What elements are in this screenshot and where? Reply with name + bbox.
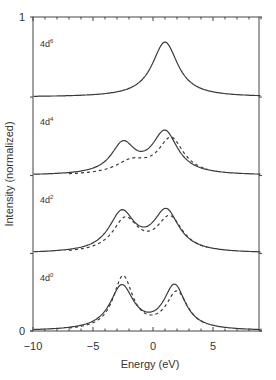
y-tick-label-bottom: 0 — [19, 325, 25, 337]
panel-label-4d2: 4d2 — [40, 194, 54, 205]
curve-4d4-solid — [34, 130, 261, 174]
panel-label-4d4: 4d4 — [40, 116, 54, 127]
spectra-figure: 4d64d44d24d0 1 0 −10 −5 0 5 Energy (eV) … — [0, 0, 276, 380]
panel-labels: 4d64d44d24d0 — [40, 38, 54, 283]
curve-4d0-dashed — [69, 276, 207, 328]
plot-frame — [33, 17, 259, 331]
x-tick-label: 0 — [150, 340, 156, 352]
x-tick-label: −10 — [24, 340, 43, 352]
plot-border — [33, 17, 259, 331]
panel-label-4d6: 4d6 — [40, 38, 54, 49]
axis-ticks — [30, 17, 262, 331]
y-tick-label-top: 1 — [19, 11, 25, 23]
x-tick-label: 5 — [210, 340, 216, 352]
x-axis-label: Energy (eV) — [121, 358, 180, 370]
curve-4d2-solid — [34, 208, 261, 252]
x-tick-label: −5 — [87, 340, 100, 352]
curve-4d0-solid — [34, 284, 261, 330]
x-tick-labels: −10 −5 0 5 — [24, 340, 216, 352]
curve-4d4-dashed — [69, 137, 207, 174]
panel-label-4d0: 4d0 — [40, 272, 54, 283]
y-axis-label: Intensity (normalized) — [3, 121, 15, 226]
spectra-curves — [34, 42, 261, 329]
curve-4d6-solid — [34, 42, 261, 96]
curve-4d2-dashed — [69, 215, 207, 250]
